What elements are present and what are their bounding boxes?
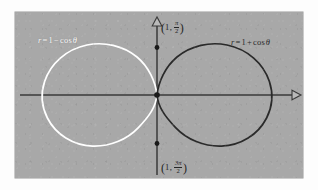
point-label-bottom-comma: , xyxy=(170,163,174,172)
equation-left-angle: θ xyxy=(73,35,77,45)
point-label-bottom: (1, 3π 2 ) xyxy=(161,160,187,175)
equation-right-angle: θ xyxy=(266,37,270,47)
equation-left-variable: r xyxy=(38,35,42,45)
point-label-top: (1, π 2 ) xyxy=(161,20,184,35)
intersection-point-top xyxy=(155,45,160,50)
equation-right-equals: = xyxy=(235,37,242,47)
equation-label-right-cardioid: r=1+cos θ xyxy=(231,38,270,47)
point-label-top-denominator: 2 xyxy=(174,28,179,35)
point-label-top-fraction: π 2 xyxy=(174,20,179,35)
equation-left-operator: − xyxy=(53,35,60,45)
point-label-top-comma: , xyxy=(170,23,174,32)
intersection-point-bottom xyxy=(155,141,160,146)
point-label-bottom-close-paren: ) xyxy=(183,162,187,174)
origin-point xyxy=(154,92,160,98)
equation-label-left-cardioid: r=1−cos θ xyxy=(38,36,77,45)
figure-root: r=1−cos θ r=1+cos θ (1, π 2 ) (1, 3π 2 ) xyxy=(0,0,318,190)
point-label-bottom-denominator: 2 xyxy=(176,168,181,175)
horizontal-axis-arrowhead-icon xyxy=(292,90,301,100)
point-label-bottom-fraction: 3π 2 xyxy=(174,160,183,175)
equation-left-function: cos xyxy=(60,35,72,45)
equation-left-equals: = xyxy=(42,35,49,45)
point-label-top-close-paren: ) xyxy=(180,22,184,34)
equation-right-variable: r xyxy=(231,37,235,47)
equation-right-operator: + xyxy=(246,37,253,47)
equation-right-function: cos xyxy=(253,37,265,47)
